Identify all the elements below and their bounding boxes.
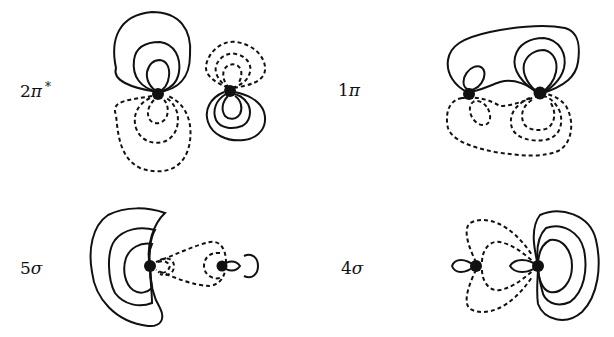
orbital-2pi-star: [114, 12, 265, 171]
orbital-1pi: [447, 26, 579, 156]
orbital-contour-figure: [0, 0, 614, 337]
orbital-5sigma: [91, 208, 258, 326]
orbital-4sigma: [452, 211, 599, 319]
